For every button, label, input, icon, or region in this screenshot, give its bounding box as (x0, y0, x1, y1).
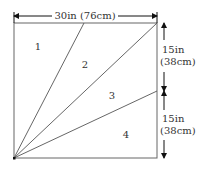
region-label-2: 2 (82, 59, 88, 70)
origin-dot (13, 157, 16, 160)
divider-line-3-4 (14, 91, 157, 158)
region-label-4: 4 (123, 129, 129, 140)
height-lower-label-cm: (38cm) (160, 125, 196, 136)
divider-line-1-2 (14, 23, 84, 158)
quilt-square-diagram: 30in (76cm) 15in (38cm) 15in (38cm) 1 2 … (0, 0, 202, 172)
region-label-1: 1 (35, 41, 41, 52)
height-upper-label-in: 15in (162, 44, 185, 55)
region-label-3: 3 (109, 90, 115, 101)
height-upper-label-cm: (38cm) (160, 56, 196, 67)
height-lower-label-in: 15in (162, 113, 185, 124)
width-label: 30in (76cm) (54, 10, 115, 21)
